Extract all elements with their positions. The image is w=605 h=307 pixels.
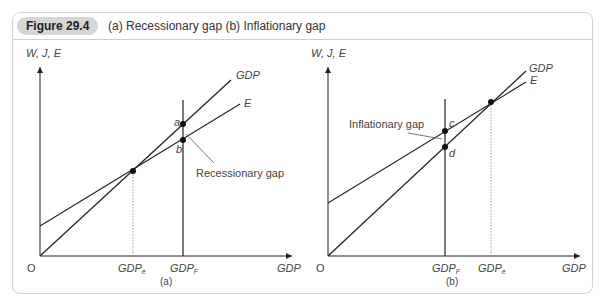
tick-gdp-e: GDPe: [478, 262, 506, 275]
expenditure-line: [40, 104, 240, 226]
gdp-line-label: GDP: [236, 69, 261, 81]
gdp-line: [328, 71, 526, 256]
panel-a: W, J, E GDP O a b Recessionary gap GDP E…: [26, 47, 302, 287]
equilibrium-point: [488, 99, 494, 105]
tick-gdp-f: GDPF: [170, 262, 199, 275]
point-d: [442, 144, 448, 150]
inflationary-gap-label: Inflationary gap: [349, 118, 424, 130]
x-axis-label: GDP: [277, 262, 302, 274]
point-c: [442, 128, 448, 134]
y-axis-label: W, J, E: [311, 47, 347, 59]
e-line-label: E: [244, 97, 252, 109]
expenditure-line: [328, 82, 526, 203]
y-axis-label: W, J, E: [26, 47, 62, 59]
tick-gdp-f: GDPF: [432, 262, 461, 275]
point-d-label: d: [449, 147, 456, 159]
panel-caption: (b): [446, 276, 458, 287]
x-axis-label: GDP: [562, 262, 587, 274]
origin-label: O: [27, 262, 36, 274]
point-c-label: c: [449, 117, 455, 129]
tick-gdp-e: GDPe: [118, 262, 146, 275]
point-a: [180, 121, 186, 127]
equilibrium-point: [130, 168, 136, 174]
point-a-label: a: [174, 116, 180, 128]
gdp-line-label: GDP: [529, 62, 554, 74]
gap-leader-line: [186, 134, 214, 163]
panel-caption: (a): [160, 276, 172, 287]
point-b-label: b: [176, 143, 182, 155]
diagram-canvas: W, J, E GDP O a b Recessionary gap GDP E…: [0, 0, 605, 307]
recessionary-gap-label: Recessionary gap: [196, 167, 284, 179]
origin-label: O: [316, 262, 325, 274]
e-line-label: E: [530, 74, 538, 86]
panel-b: W, J, E GDP O c d Inflationary gap GDP E…: [311, 47, 587, 287]
